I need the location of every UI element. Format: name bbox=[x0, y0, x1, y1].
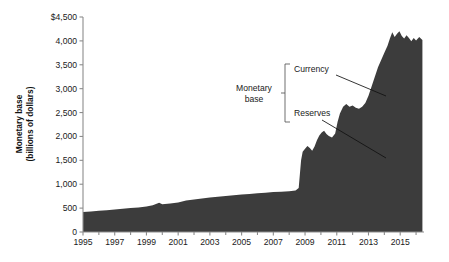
monetary-base-chart: 05001,0001,5002,0002,5003,0003,5004,000$… bbox=[0, 0, 449, 262]
x-tick-label: 1997 bbox=[105, 237, 124, 247]
x-tick-label: 1995 bbox=[73, 237, 92, 247]
y-tick-label: 3,500 bbox=[55, 60, 77, 70]
chart-canvas: 05001,0001,5002,0002,5003,0003,5004,000$… bbox=[0, 0, 449, 262]
y-tick-label: $4,500 bbox=[51, 12, 78, 22]
x-tick-label: 2001 bbox=[169, 237, 188, 247]
y-tick-label: 3,000 bbox=[55, 84, 77, 94]
x-tick-label: 2003 bbox=[200, 237, 219, 247]
y-tick-label: 500 bbox=[63, 203, 78, 213]
y-axis-title-line1: Monetary base bbox=[14, 94, 24, 153]
y-tick-label: 2,000 bbox=[55, 131, 77, 141]
y-tick-label: 0 bbox=[72, 227, 77, 237]
annotation-monetary-base-line1: Monetary bbox=[236, 83, 273, 93]
y-axis-title: Monetary base (billions of dollars) bbox=[14, 86, 35, 161]
x-axis-ticks: 1995199719992001200320052007200920112013… bbox=[73, 232, 416, 247]
y-tick-label: 1,500 bbox=[55, 155, 77, 165]
y-tick-label: 4,000 bbox=[55, 36, 77, 46]
plot-area bbox=[83, 31, 422, 232]
x-tick-label: 2011 bbox=[328, 237, 347, 247]
x-tick-label: 2007 bbox=[264, 237, 283, 247]
x-tick-label: 1999 bbox=[137, 237, 156, 247]
monetary-base-bracket bbox=[281, 64, 290, 122]
x-tick-label: 2005 bbox=[232, 237, 251, 247]
annotation-reserves-label: Reserves bbox=[294, 108, 330, 118]
x-tick-label: 2013 bbox=[359, 237, 378, 247]
x-tick-label: 2015 bbox=[391, 237, 410, 247]
annotation-currency-label: Currency bbox=[294, 64, 330, 74]
annotation-monetary-base-line2: base bbox=[245, 94, 264, 104]
y-axis-title-line2: (billions of dollars) bbox=[25, 86, 35, 161]
y-axis-ticks: 05001,0001,5002,0002,5003,0003,5004,000$… bbox=[51, 12, 83, 237]
y-tick-label: 2,500 bbox=[55, 108, 77, 118]
x-tick-label: 2009 bbox=[295, 237, 314, 247]
y-tick-label: 1,000 bbox=[55, 179, 77, 189]
monetary-base-area bbox=[83, 31, 422, 232]
